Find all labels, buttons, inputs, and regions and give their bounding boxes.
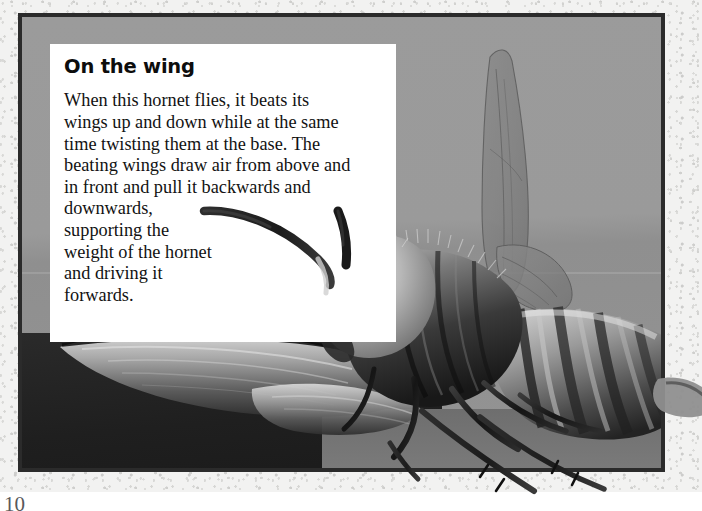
page-number: 10 bbox=[4, 494, 25, 511]
caption-heading: On the wing bbox=[64, 56, 380, 77]
raised-wings bbox=[482, 50, 572, 312]
caption-box: On the wing When this hornet flies, it b… bbox=[50, 44, 396, 342]
book-page: On the wing When this hornet flies, it b… bbox=[0, 0, 702, 511]
hornet-photograph: On the wing When this hornet flies, it b… bbox=[18, 13, 665, 472]
caption-body-text: When this hornet flies, it beats its win… bbox=[64, 90, 380, 306]
